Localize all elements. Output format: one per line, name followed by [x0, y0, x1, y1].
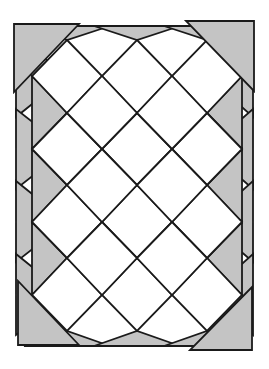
quilt-diagram	[0, 0, 269, 369]
gray-top-triangle	[94, 26, 180, 40]
gray-bottom-triangle	[94, 331, 180, 346]
